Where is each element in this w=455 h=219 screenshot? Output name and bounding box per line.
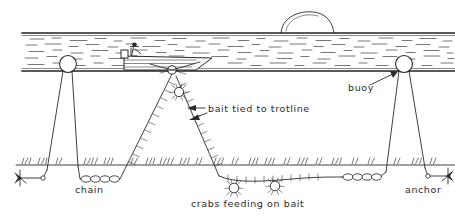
chain-left <box>78 166 123 182</box>
anchor-left <box>14 170 47 186</box>
chain-right <box>342 172 386 180</box>
trotline-bottom <box>219 174 342 183</box>
bait-marks-left <box>129 82 175 165</box>
anchor-right <box>425 168 454 184</box>
water-band <box>22 33 455 71</box>
bait-label-arrows <box>187 105 207 120</box>
label-anchor: anchor <box>405 185 441 195</box>
seabed <box>16 158 455 165</box>
label-buoy: buoy <box>348 83 374 93</box>
buoy-left <box>47 56 78 171</box>
label-crabs-feeding-on-bait: crabs feeding on bait <box>191 199 304 209</box>
trotline-left-leg <box>123 74 175 173</box>
trotline-diagram: bait tied to trotline buoy chain anchor … <box>0 0 455 219</box>
water-hatching <box>25 38 454 66</box>
horizon-hill-icon <box>281 12 334 33</box>
crab-on-line <box>170 84 188 100</box>
buoy-label-arrow <box>370 71 398 85</box>
label-bait-tied-to-trotline: bait tied to trotline <box>208 104 310 114</box>
bait-marks-right <box>180 83 221 166</box>
seabed-grass <box>22 158 436 164</box>
crab-feeding-1 <box>225 180 243 197</box>
label-chain: chain <box>75 185 104 195</box>
fisherman-figure <box>131 43 142 56</box>
